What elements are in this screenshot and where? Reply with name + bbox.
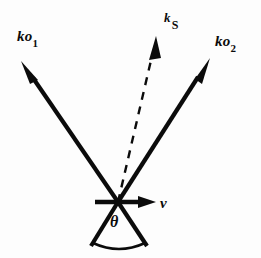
- vector-ks-arrowhead: [149, 36, 161, 60]
- figure-root: ko1 ko2 kS v θ: [0, 0, 261, 258]
- label-ko2-base: ko: [215, 33, 230, 49]
- label-ks: kS: [164, 9, 177, 28]
- label-ko1-subscript: 1: [32, 37, 38, 49]
- vector-ko1: [21, 61, 118, 202]
- label-ko2: ko2: [215, 33, 236, 52]
- vector-ko2: [118, 58, 210, 202]
- vector-ko1-arrowhead: [21, 61, 38, 84]
- vector-ko1-shaft: [33, 78, 118, 202]
- vector-ko2-shaft: [118, 77, 198, 202]
- label-ks-subscript: S: [172, 18, 179, 32]
- vector-ko2-arrowhead: [195, 58, 210, 84]
- label-ko1-base: ko: [17, 28, 32, 44]
- ko1-extension-line: [118, 202, 147, 246]
- label-ko1: ko1: [17, 28, 38, 47]
- vector-v-arrowhead: [138, 196, 156, 208]
- vector-v: [95, 196, 156, 208]
- vector-ks: [118, 36, 161, 202]
- vector-ks-shaft: [118, 56, 152, 202]
- line-extensions: [91, 202, 147, 246]
- label-velocity: v: [160, 196, 167, 211]
- label-ks-base: k: [164, 10, 171, 25]
- label-ko2-subscript: 2: [230, 42, 236, 54]
- angle-arc: [93, 243, 145, 249]
- label-angle-theta: θ: [110, 214, 118, 230]
